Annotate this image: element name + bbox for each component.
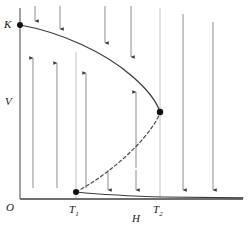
label-h-axis: H xyxy=(131,212,141,224)
flow-arrows-up xyxy=(33,58,136,188)
phase-diagram-figure: K V O H T1 T2 xyxy=(0,0,248,225)
label-v-axis: V xyxy=(5,95,13,107)
label-k: K xyxy=(3,18,12,30)
unstable-branch xyxy=(76,112,160,192)
point-branch-t1 xyxy=(73,189,79,195)
threshold-guides xyxy=(76,8,160,199)
flow-arrows-down-lower xyxy=(108,170,136,190)
label-t2: T2 xyxy=(153,203,163,218)
upper-stable-branch xyxy=(20,25,160,112)
label-t1: T1 xyxy=(69,203,79,218)
point-k xyxy=(17,22,23,28)
label-origin: O xyxy=(6,201,14,213)
point-fold-t2 xyxy=(157,109,163,115)
flow-arrows-down-right xyxy=(183,14,213,190)
phase-diagram-canvas: K V O H T1 T2 xyxy=(0,0,248,225)
